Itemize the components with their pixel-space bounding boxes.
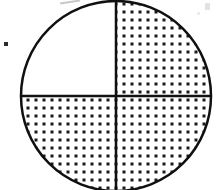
fraction-circle-figure: Circle divided into four equal quadrants: [0, 0, 220, 190]
scan-speck-top-right-secondary: [197, 12, 200, 15]
scan-speck-left: [4, 42, 8, 46]
scan-speck-top-right: [205, 3, 210, 10]
